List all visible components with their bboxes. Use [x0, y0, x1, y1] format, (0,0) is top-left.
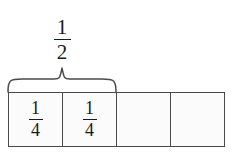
curly-brace-icon	[0, 60, 130, 94]
fraction-bar: 1 4 1 4	[8, 92, 225, 147]
cell-1-denominator: 4	[31, 122, 40, 139]
brace-label-denominator: 2	[57, 42, 68, 62]
cell-2-fraction: 1 4	[83, 100, 97, 139]
fraction-cell-4[interactable]	[171, 93, 224, 146]
brace-label-numerator: 1	[57, 17, 68, 37]
fraction-cell-1[interactable]: 1 4	[9, 93, 63, 146]
cell-1-fraction: 1 4	[29, 100, 43, 139]
brace-label-one-half: 1 2	[44, 16, 80, 62]
cell-1-numerator: 1	[31, 100, 40, 117]
fraction-cell-3[interactable]	[117, 93, 171, 146]
cell-2-denominator: 4	[85, 122, 94, 139]
cell-2-numerator: 1	[85, 100, 94, 117]
fraction-cell-2[interactable]: 1 4	[63, 93, 117, 146]
fraction-diagram: 1 2 1 4 1 4	[0, 0, 235, 163]
